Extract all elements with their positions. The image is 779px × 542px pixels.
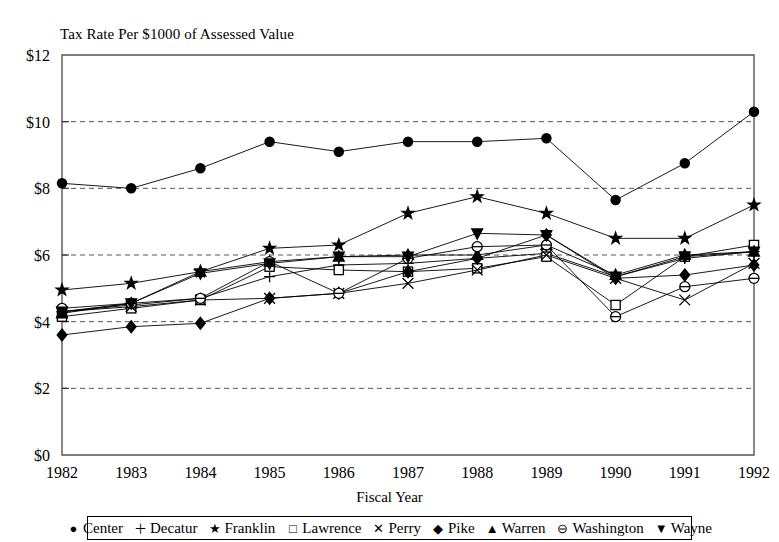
legend-marker-icon: ◆ — [432, 522, 445, 535]
y-tick-label: $6 — [34, 247, 50, 264]
legend-item-wayne[interactable]: ▼Wayne — [655, 520, 712, 537]
legend-item-lawrence[interactable]: □Lawrence — [286, 520, 361, 537]
y-tick-label: $0 — [34, 447, 50, 464]
legend-marker-icon: ▼ — [655, 522, 668, 535]
data-point-filled-circle — [57, 179, 66, 188]
legend-item-franklin[interactable]: ★Franklin — [208, 520, 275, 537]
legend-item-center[interactable]: ●Center — [67, 520, 123, 537]
data-point-filled-circle — [334, 147, 343, 156]
data-point-filled-circle — [542, 134, 551, 143]
data-point-star — [333, 239, 345, 250]
y-tick-label: $4 — [34, 314, 50, 331]
data-point-filled-circle — [265, 137, 274, 146]
series-pike — [57, 229, 759, 341]
y-tick-labels: $0$2$4$6$8$10$12 — [26, 47, 50, 464]
legend-label: Center — [83, 520, 123, 537]
data-point-star — [402, 207, 414, 218]
data-point-filled-circle — [680, 159, 689, 168]
x-tick-label: 1988 — [461, 464, 493, 481]
data-point-x-cross — [403, 278, 414, 289]
legend-item-decatur[interactable]: ＋Decatur — [134, 520, 197, 537]
x-tick-label: 1983 — [115, 464, 147, 481]
data-point-star — [541, 207, 553, 218]
data-point-star — [610, 232, 622, 243]
legend-item-pike[interactable]: ◆Pike — [432, 520, 475, 537]
data-point-star — [264, 242, 276, 253]
x-tick-label: 1984 — [184, 464, 216, 481]
data-point-open-square — [611, 300, 620, 309]
data-point-filled-diamond — [126, 321, 136, 333]
data-point-plus — [264, 271, 275, 282]
data-point-filled-diamond — [196, 317, 206, 329]
legend-label: Warren — [502, 520, 546, 537]
chart-container: Tax Rate Per $1000 of Assessed Value $0$… — [0, 0, 779, 542]
legend-marker-icon: ✕ — [372, 522, 385, 535]
x-tick-label: 1987 — [392, 464, 424, 481]
x-tick-label: 1982 — [46, 464, 78, 481]
legend-item-warren[interactable]: ▲Warren — [486, 520, 546, 537]
chart-canvas: $0$2$4$6$8$10$12 19821983198419851986198… — [0, 0, 779, 542]
x-axis-title: Fiscal Year — [0, 489, 779, 506]
y-tick-marks — [62, 122, 69, 389]
legend-item-perry[interactable]: ✕Perry — [372, 520, 421, 537]
data-point-star — [125, 277, 137, 288]
x-tick-label: 1992 — [738, 464, 770, 481]
legend-label: Pike — [448, 520, 475, 537]
x-tick-label: 1990 — [600, 464, 632, 481]
data-point-filled-circle — [127, 184, 136, 193]
legend-marker-icon: ＋ — [134, 522, 147, 535]
legend-label: Lawrence — [302, 520, 361, 537]
legend-label: Perry — [388, 520, 421, 537]
data-point-filled-circle — [196, 164, 205, 173]
data-point-star — [471, 191, 483, 202]
legend-marker-icon: ● — [67, 522, 80, 535]
legend-label: Washington — [572, 520, 643, 537]
data-point-star — [679, 232, 691, 243]
y-tick-label: $10 — [26, 114, 50, 131]
data-point-open-square — [334, 265, 343, 274]
legend-label: Decatur — [150, 520, 197, 537]
data-point-filled-circle — [749, 107, 758, 116]
legend-label: Wayne — [671, 520, 712, 537]
data-point-open-square — [542, 252, 551, 261]
x-tick-label: 1985 — [254, 464, 286, 481]
y-tick-label: $8 — [34, 180, 50, 197]
data-point-x-cross — [679, 295, 690, 306]
data-point-filled-triangle-down — [472, 229, 483, 239]
legend-item-washington[interactable]: ⊖Washington — [556, 520, 643, 537]
data-series-layer — [56, 107, 760, 341]
legend-marker-icon: ★ — [208, 522, 221, 535]
x-tick-label: 1991 — [669, 464, 701, 481]
series-line — [62, 112, 754, 200]
legend-marker-icon: □ — [286, 522, 299, 535]
legend-marker-icon: ⊖ — [556, 522, 569, 535]
series-franklin — [56, 191, 760, 295]
x-tick-labels: 1982198319841985198619871988198919901991… — [46, 464, 770, 481]
y-tick-label: $12 — [26, 47, 50, 64]
x-tick-label: 1986 — [323, 464, 355, 481]
y-tick-label: $2 — [34, 380, 50, 397]
data-point-filled-circle — [611, 195, 620, 204]
legend-label: Franklin — [224, 520, 275, 537]
data-point-filled-diamond — [680, 269, 690, 281]
chart-legend: ●Center＋Decatur★Franklin□Lawrence✕Perry◆… — [87, 516, 692, 540]
data-point-filled-circle — [473, 137, 482, 146]
x-tick-label: 1989 — [530, 464, 562, 481]
data-point-filled-circle — [403, 137, 412, 146]
data-point-filled-diamond — [57, 329, 67, 341]
legend-marker-icon: ▲ — [486, 522, 499, 535]
